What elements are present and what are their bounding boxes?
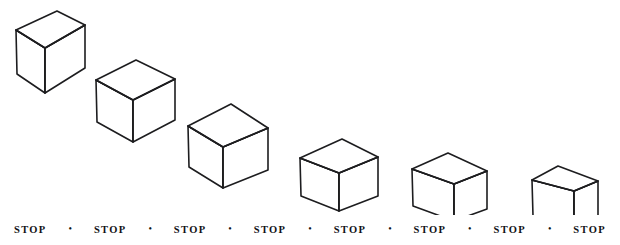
stop-label: STOP bbox=[14, 225, 47, 236]
bullet-separator: • bbox=[468, 224, 472, 234]
cube-1 bbox=[16, 11, 85, 93]
stop-label: STOP bbox=[414, 225, 447, 236]
cube-4 bbox=[300, 139, 378, 211]
cube-sequence-illustration bbox=[0, 0, 620, 215]
stop-label: STOP bbox=[174, 225, 207, 236]
bullet-separator: • bbox=[69, 224, 73, 234]
stop-label: STOP bbox=[493, 225, 526, 236]
stop-label: STOP bbox=[94, 225, 127, 236]
bullet-separator: • bbox=[388, 224, 392, 234]
stop-label: STOP bbox=[254, 225, 287, 236]
stop-label: STOP bbox=[573, 225, 606, 236]
cube-2 bbox=[96, 60, 175, 142]
cube-5 bbox=[412, 153, 487, 215]
cube-3 bbox=[188, 104, 268, 188]
bullet-separator: • bbox=[308, 224, 312, 234]
cube-6 bbox=[532, 166, 598, 215]
figure-canvas: STOP•STOP•STOP•STOP•STOP•STOP•STOP•STOP bbox=[0, 0, 620, 245]
bullet-separator: • bbox=[148, 224, 152, 234]
caption-strip: STOP•STOP•STOP•STOP•STOP•STOP•STOP•STOP bbox=[0, 215, 620, 245]
cube-group bbox=[16, 11, 598, 215]
stop-caption-row: STOP•STOP•STOP•STOP•STOP•STOP•STOP•STOP bbox=[14, 225, 606, 236]
bullet-separator: • bbox=[228, 224, 232, 234]
bullet-separator: • bbox=[548, 224, 552, 234]
stop-label: STOP bbox=[334, 225, 367, 236]
